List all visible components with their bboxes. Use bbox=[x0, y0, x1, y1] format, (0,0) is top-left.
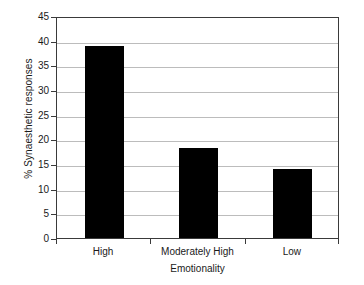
x-axis-tick-label: High bbox=[93, 245, 114, 259]
bar bbox=[273, 169, 312, 238]
x-axis-tick-label: Moderately High bbox=[161, 245, 234, 259]
y-axis-tick-label: 0 bbox=[43, 232, 49, 245]
x-axis-title: Emotionality bbox=[56, 263, 339, 274]
y-axis-tick-label: 15 bbox=[38, 158, 49, 171]
x-axis-tick-mark bbox=[245, 239, 246, 244]
bar bbox=[179, 148, 218, 238]
y-axis-tick-label: 5 bbox=[43, 207, 49, 220]
y-axis-tick-label: 45 bbox=[38, 10, 49, 23]
plot-area bbox=[56, 17, 339, 239]
x-axis-tick-mark bbox=[338, 239, 339, 244]
x-axis-tick-mark bbox=[150, 239, 151, 244]
y-axis-tick-label: 20 bbox=[38, 133, 49, 146]
y-axis-ticks: 051015202530354045 bbox=[0, 17, 56, 239]
x-axis-tick-label: Low bbox=[283, 245, 301, 259]
y-axis-tick-label: 25 bbox=[38, 109, 49, 122]
bar-chart: % Synaesthetic responses 051015202530354… bbox=[0, 0, 364, 285]
x-axis-tick-labels: HighModerately HighLow bbox=[56, 245, 339, 261]
bar bbox=[85, 46, 124, 238]
bar-series bbox=[57, 18, 338, 238]
y-axis-tick-label: 35 bbox=[38, 59, 49, 72]
y-axis-tick-label: 40 bbox=[38, 35, 49, 48]
y-axis-tick-label: 10 bbox=[38, 183, 49, 196]
x-axis-tick-mark bbox=[56, 239, 57, 244]
y-axis-tick-label: 30 bbox=[38, 84, 49, 97]
